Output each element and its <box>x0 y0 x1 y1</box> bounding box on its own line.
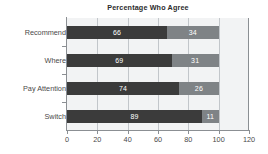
bar-value-label: 26 <box>195 85 203 92</box>
category-label-recommend: Recommend <box>0 29 66 36</box>
x-tick-label-60: 60 <box>146 136 170 143</box>
bar-value-label: 34 <box>189 29 197 36</box>
category-label-where: Where <box>0 57 66 64</box>
bar-segment-agree: 66 <box>67 26 167 39</box>
x-tick-label-0: 0 <box>55 136 79 143</box>
bar-row: 6634 <box>67 26 219 39</box>
gridline-100 <box>219 18 220 130</box>
chart-title: Percentage Who Agree <box>0 3 268 12</box>
bar-segment-agree: 74 <box>67 82 179 95</box>
bar-row: 6931 <box>67 54 219 67</box>
x-tick-label-40: 40 <box>116 136 140 143</box>
x-tick-40 <box>128 131 129 134</box>
bar-value-label: 11 <box>206 113 214 120</box>
y-tick <box>62 46 67 47</box>
bar-value-label: 69 <box>115 57 123 64</box>
bar-row: 7426 <box>67 82 219 95</box>
category-label-switch: Switch <box>0 113 66 120</box>
x-tick-80 <box>188 131 189 134</box>
category-label-pay-attention: Pay Attention <box>0 85 66 92</box>
x-tick-label-120: 120 <box>237 136 261 143</box>
bar-value-label: 66 <box>113 29 121 36</box>
x-tick-120 <box>249 131 250 134</box>
bar-segment-disagree: 31 <box>172 54 219 67</box>
bar-segment-agree: 89 <box>67 110 202 123</box>
x-tick-0 <box>67 131 68 134</box>
bar-segment-disagree: 11 <box>202 110 219 123</box>
bar-value-label: 31 <box>191 57 199 64</box>
x-tick-label-100: 100 <box>207 136 231 143</box>
x-tick-label-80: 80 <box>176 136 200 143</box>
bar-value-label: 89 <box>130 113 138 120</box>
y-tick <box>62 102 67 103</box>
bar-segment-disagree: 26 <box>179 82 218 95</box>
y-tick <box>62 74 67 75</box>
bar-segment-agree: 69 <box>67 54 172 67</box>
x-tick-20 <box>97 131 98 134</box>
x-tick-100 <box>219 131 220 134</box>
bar-row: 8911 <box>67 110 219 123</box>
bar-segment-disagree: 34 <box>167 26 219 39</box>
x-tick-label-20: 20 <box>85 136 109 143</box>
chart-container: Percentage Who Agree 6634693174268911 Re… <box>0 0 268 154</box>
bar-value-label: 74 <box>119 85 127 92</box>
x-tick-60 <box>158 131 159 134</box>
